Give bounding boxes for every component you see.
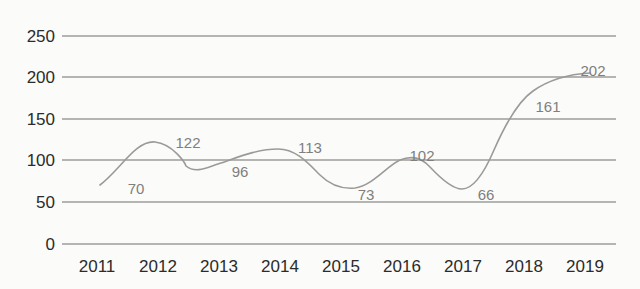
x-tick-label-2014: 2014 (261, 257, 299, 276)
y-tick-label-0: 0 (46, 235, 55, 254)
x-tick-label-2013: 2013 (200, 257, 238, 276)
x-tick-label-2015: 2015 (322, 257, 360, 276)
data-label-2016: 102 (409, 147, 434, 164)
data-label-2012: 122 (175, 134, 200, 151)
x-tick-label-2012: 2012 (139, 257, 177, 276)
y-tick-label-100: 100 (27, 151, 55, 170)
y-axis-tick-labels: 250 200 150 100 50 0 (27, 27, 55, 254)
data-label-2014: 113 (298, 139, 322, 156)
data-label-2018: 161 (535, 98, 560, 115)
line-chart: 250 200 150 100 50 0 70 122 96 113 73 10… (0, 0, 640, 289)
y-tick-label-50: 50 (36, 193, 55, 212)
series-line-group (100, 73, 590, 189)
data-label-2019: 202 (580, 62, 605, 79)
y-tick-label-200: 200 (27, 68, 55, 87)
x-tick-label-2016: 2016 (383, 257, 421, 276)
data-label-2015: 73 (358, 186, 375, 203)
x-tick-label-2019: 2019 (566, 257, 604, 276)
x-axis-tick-labels: 2011 2012 2013 2014 2015 2016 2017 2018 … (79, 257, 604, 276)
x-tick-label-2011: 2011 (79, 257, 116, 276)
data-point-labels: 70 122 96 113 73 102 66 161 202 (128, 62, 606, 203)
series-line (100, 73, 590, 189)
data-label-2013: 96 (232, 163, 249, 180)
y-tick-label-150: 150 (27, 110, 55, 129)
x-tick-label-2018: 2018 (505, 257, 543, 276)
data-label-2011: 70 (128, 180, 145, 197)
data-label-2017: 66 (478, 186, 495, 203)
y-tick-label-250: 250 (27, 27, 55, 46)
chart-page: 250 200 150 100 50 0 70 122 96 113 73 10… (0, 0, 640, 289)
gridlines (62, 36, 616, 244)
x-tick-label-2017: 2017 (444, 257, 482, 276)
